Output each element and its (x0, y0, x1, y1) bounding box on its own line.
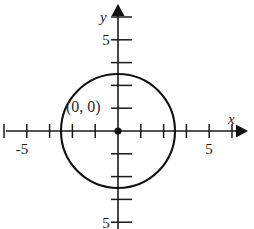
y-tick-label-positive-5: 5 (102, 32, 110, 48)
x-axis-label: x (227, 111, 235, 127)
y-axis-tick-marks (111, 17, 132, 222)
coordinate-plane-svg: x y -5 5 5 5 (0, 0) (0, 0, 254, 229)
y-axis-arrow-icon (112, 4, 125, 16)
y-tick-label-negative-5: 5 (102, 215, 110, 229)
origin-point-label: (0, 0) (66, 98, 101, 116)
graph-figure: x y -5 5 5 5 (0, 0) (0, 0, 254, 229)
x-tick-label-positive-5: 5 (205, 141, 213, 157)
x-axis-arrow-icon (236, 125, 248, 138)
x-tick-label-negative-5: -5 (16, 141, 29, 157)
y-axis-label: y (98, 9, 107, 25)
origin-point-marker (114, 127, 121, 134)
